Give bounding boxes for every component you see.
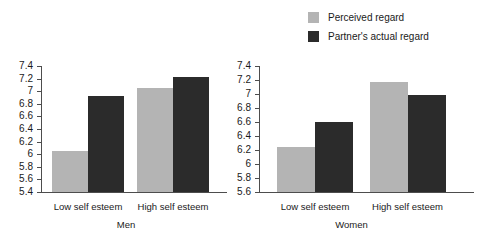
y-axis-tick <box>37 116 41 117</box>
y-axis-label: 6.4 <box>219 131 251 141</box>
y-axis-tick <box>255 164 259 165</box>
y-axis-tick <box>255 66 259 67</box>
y-axis-label: 7.4 <box>219 61 251 71</box>
y-axis-label: 7.4 <box>1 61 33 71</box>
y-axis-tick <box>37 129 41 130</box>
y-axis-tick <box>37 167 41 168</box>
bar-chart-figure: Perceived regard Partner's actual regard… <box>0 0 479 248</box>
bar <box>408 95 446 192</box>
y-axis-label: 7.2 <box>219 75 251 85</box>
y-axis-label: 6.8 <box>219 103 251 113</box>
bar <box>137 88 173 192</box>
x-axis-line <box>41 192 227 193</box>
plot-area: 7.47.276.86.66.46.265.85.6Low self estee… <box>259 66 444 192</box>
y-axis-label: 6 <box>219 159 251 169</box>
chart-panel-women: 7.47.276.86.66.46.265.85.6Low self estee… <box>232 0 479 248</box>
panel-title-women: Women <box>292 220 412 230</box>
bar <box>315 122 353 192</box>
y-axis-label: 6.4 <box>1 124 33 134</box>
bar <box>52 151 88 192</box>
y-axis-tick <box>255 136 259 137</box>
y-axis-label: 7 <box>219 89 251 99</box>
x-axis-line <box>259 192 474 193</box>
y-axis-tick <box>37 104 41 105</box>
chart-panel-men: 7.47.276.86.66.46.265.85.65.4Low self es… <box>0 0 232 248</box>
y-axis-label: 5.6 <box>1 174 33 184</box>
panel-title-men: Men <box>66 220 186 230</box>
y-axis-tick <box>255 178 259 179</box>
y-axis-tick <box>255 80 259 81</box>
y-axis-label: 5.8 <box>219 173 251 183</box>
y-axis-label: 5.8 <box>1 162 33 172</box>
x-axis-category-label: High self esteem <box>118 202 228 212</box>
y-axis-tick <box>255 94 259 95</box>
y-axis-tick <box>37 154 41 155</box>
y-axis-label: 7.2 <box>1 74 33 84</box>
bar <box>88 96 124 192</box>
y-axis-tick <box>37 91 41 92</box>
y-axis-label: 6.6 <box>219 117 251 127</box>
y-axis-label: 7 <box>1 86 33 96</box>
y-axis-tick <box>255 192 259 193</box>
y-axis-tick <box>255 150 259 151</box>
y-axis-tick <box>37 192 41 193</box>
y-axis-label: 6.2 <box>1 137 33 147</box>
bar <box>277 147 315 193</box>
y-axis-label: 5.4 <box>1 187 33 197</box>
bar <box>370 82 408 192</box>
y-axis-tick <box>37 179 41 180</box>
y-axis-tick <box>255 108 259 109</box>
y-axis-label: 5.6 <box>219 187 251 197</box>
y-axis-tick <box>255 122 259 123</box>
x-axis-category-label: High self esteem <box>353 202 463 212</box>
y-axis-tick <box>37 79 41 80</box>
plot-area: 7.47.276.86.66.46.265.85.65.4Low self es… <box>41 66 211 192</box>
y-axis-label: 6.2 <box>219 145 251 155</box>
bar <box>173 77 209 192</box>
y-axis-line <box>41 66 42 192</box>
y-axis-line <box>259 66 260 192</box>
y-axis-tick <box>37 142 41 143</box>
y-axis-label: 6.8 <box>1 99 33 109</box>
y-axis-label: 6 <box>1 149 33 159</box>
y-axis-label: 6.6 <box>1 111 33 121</box>
y-axis-tick <box>37 66 41 67</box>
